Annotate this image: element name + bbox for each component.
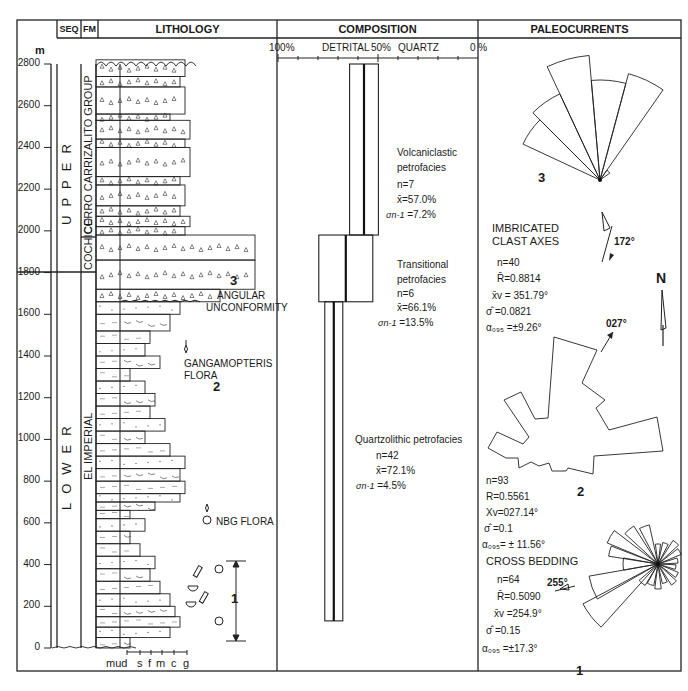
depth-tick-marks	[0, 0, 688, 691]
